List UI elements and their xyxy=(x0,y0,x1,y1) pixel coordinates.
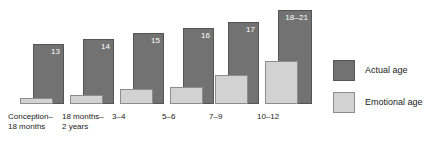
bar-value-label: 14 xyxy=(101,42,110,51)
x-axis-tick-label: 5–6 xyxy=(162,112,202,122)
bar-value-label: 18–21 xyxy=(285,13,308,22)
legend-item-label: Actual age xyxy=(365,65,408,76)
bar-emotional-age xyxy=(70,95,103,104)
legend-item-emotional-age: Emotional age xyxy=(333,90,438,114)
bar-emotional-age xyxy=(120,89,153,104)
x-axis-tick-label: 10–12 xyxy=(257,112,303,122)
legend-swatch-icon xyxy=(333,92,355,113)
bar-emotional-age xyxy=(265,61,298,104)
bar-value-label: 15 xyxy=(151,36,160,45)
bar-actual-age: 13 xyxy=(33,44,64,104)
legend-item-actual-age: Actual age xyxy=(333,58,438,82)
bar-value-label: 16 xyxy=(201,31,210,40)
bar-chart-figure: 13 14 15 16 17 xyxy=(0,0,438,141)
bar-emotional-age xyxy=(170,87,203,104)
legend-swatch-icon xyxy=(333,60,355,81)
bar-emotional-age xyxy=(20,98,53,104)
bar-emotional-age xyxy=(215,75,248,104)
chart-legend: Actual age Emotional age xyxy=(333,58,438,122)
legend-item-label: Emotional age xyxy=(365,97,423,108)
x-axis-labels: Conception– 18 months 18 months– 2 years… xyxy=(0,110,318,141)
bar-value-label: 13 xyxy=(51,47,60,56)
x-axis-tick-label: 3–4 xyxy=(112,112,152,122)
chart-plot-area: 13 14 15 16 17 xyxy=(0,0,318,110)
bar-value-label: 17 xyxy=(246,25,255,34)
x-axis-tick-label: 7–9 xyxy=(209,112,249,122)
